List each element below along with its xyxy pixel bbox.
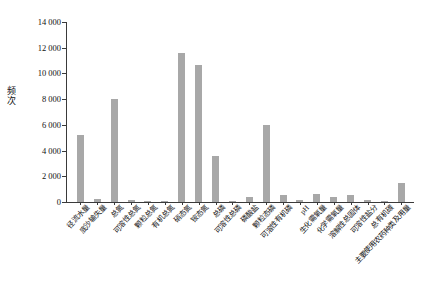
- bar: [178, 53, 185, 202]
- y-tick-label: 14 000: [38, 17, 61, 27]
- y-tick-label: 2 000: [42, 171, 61, 181]
- bar: [111, 99, 118, 203]
- y-tick-label: 0: [57, 197, 61, 207]
- y-tick-mark: [62, 73, 66, 74]
- bar: [347, 195, 354, 202]
- y-tick-mark: [62, 48, 66, 49]
- x-tick-label: 铵态氮: [189, 204, 209, 225]
- y-tick-mark: [62, 202, 66, 203]
- y-tick-mark: [62, 125, 66, 126]
- bar: [398, 183, 405, 202]
- x-tick-label: 硝态氮: [172, 204, 192, 225]
- chart-figure: 频次 14 00012 00010 0008 0006 0004 0002 00…: [0, 0, 431, 303]
- y-tick-mark: [62, 151, 66, 152]
- y-tick-label: 6 000: [42, 120, 61, 130]
- y-tick-mark: [62, 22, 66, 23]
- bar: [195, 65, 202, 202]
- y-tick-mark: [62, 99, 66, 100]
- y-tick-label: 10 000: [38, 68, 61, 78]
- x-axis-labels: 径流水量底沙输失量总氮可溶性总氮颗粒总氮有机总氮硝态氮铵态氮总磷可溶性总磷磷酸盐…: [66, 204, 431, 284]
- bar-series: [66, 22, 414, 202]
- y-tick-label: 4 000: [42, 146, 61, 156]
- plot-area: 14 00012 00010 0008 0006 0004 0002 0000: [66, 22, 414, 202]
- y-axis-title: 频次: [4, 86, 18, 106]
- x-tick-label: pH: [299, 204, 311, 216]
- y-tick-label: 8 000: [42, 94, 61, 104]
- bar: [280, 195, 287, 202]
- bar: [212, 156, 219, 202]
- bar: [77, 135, 84, 202]
- bar: [313, 194, 320, 202]
- bar: [263, 125, 270, 202]
- y-tick-label: 12 000: [38, 43, 61, 53]
- y-tick-mark: [62, 176, 66, 177]
